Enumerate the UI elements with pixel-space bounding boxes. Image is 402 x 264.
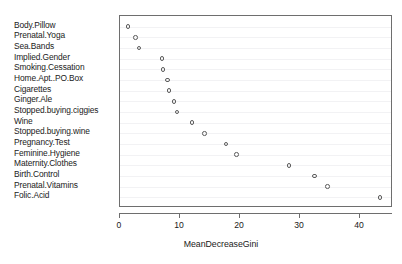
data-point [137, 46, 142, 51]
data-point [126, 24, 131, 29]
y-axis-label: Sea.Bands [0, 42, 110, 51]
y-axis-label: Maternity.Clothes [0, 159, 110, 168]
gridline [120, 37, 391, 38]
data-point [202, 131, 207, 136]
gridline [120, 91, 391, 92]
data-point [161, 67, 166, 72]
x-axis-line [119, 213, 392, 214]
gridline [120, 197, 391, 198]
x-axis-title-text: MeanDecreaseGini [184, 239, 259, 249]
gridline [120, 101, 391, 102]
x-axis-title: MeanDecreaseGini [0, 239, 402, 249]
y-axis-label: Feminine.Hygiene [0, 149, 110, 158]
data-point [172, 99, 177, 104]
y-axis-label: Folic.Acid [0, 191, 110, 200]
data-point [133, 35, 138, 40]
x-axis-tick-label: 20 [234, 220, 244, 230]
data-point [325, 184, 330, 189]
data-point [190, 120, 195, 125]
x-axis-tick-label: 10 [174, 220, 184, 230]
y-axis-label: Implied.Gender [0, 53, 110, 62]
y-axis-label: Stopped.buying.ciggies [0, 106, 110, 115]
gridline [120, 48, 391, 49]
data-point [378, 195, 383, 200]
data-point [224, 142, 229, 147]
x-axis-tick [359, 213, 360, 218]
data-point [165, 78, 170, 83]
gridline [120, 133, 391, 134]
data-point [160, 56, 165, 61]
data-point [167, 88, 172, 93]
y-axis-label: Body.Pillow [0, 21, 110, 30]
y-axis-category-labels: Folic.AcidPrenatal.VitaminsBirth.Control… [0, 15, 114, 207]
plot-area [119, 15, 392, 207]
y-axis-label: Home.Apt..PO.Box [0, 74, 110, 83]
y-axis-label: Birth.Control [0, 170, 110, 179]
variable-importance-plot: Folic.AcidPrenatal.VitaminsBirth.Control… [0, 0, 402, 264]
gridline [120, 27, 391, 28]
x-axis-tick [299, 213, 300, 218]
x-axis-tick-label: 30 [294, 220, 304, 230]
data-point [287, 163, 292, 168]
y-axis-label: Prenatal.Vitamins [0, 181, 110, 190]
y-axis-label: Smoking.Cessation [0, 63, 110, 72]
x-axis-tick-label: 0 [117, 220, 122, 230]
x-axis-tick [239, 213, 240, 218]
y-axis-label: Cigarettes [0, 85, 110, 94]
y-axis-label: Wine [0, 117, 110, 126]
data-point [175, 110, 180, 115]
data-point [312, 174, 317, 179]
gridline [120, 144, 391, 145]
gridline [120, 165, 391, 166]
x-axis-tick [119, 213, 120, 218]
y-axis-label: Stopped.buying.wine [0, 127, 110, 136]
gridline [120, 187, 391, 188]
gridline [120, 112, 391, 113]
data-point [234, 152, 239, 157]
gridline [120, 123, 391, 124]
y-axis-label: Pregnancy.Test [0, 138, 110, 147]
x-axis-tick-label: 40 [354, 220, 364, 230]
gridline [120, 176, 391, 177]
gridline [120, 80, 391, 81]
x-axis-tick [179, 213, 180, 218]
y-axis-label: Prenatal.Yoga [0, 31, 110, 40]
gridline [120, 155, 391, 156]
y-axis-label: Ginger.Ale [0, 95, 110, 104]
